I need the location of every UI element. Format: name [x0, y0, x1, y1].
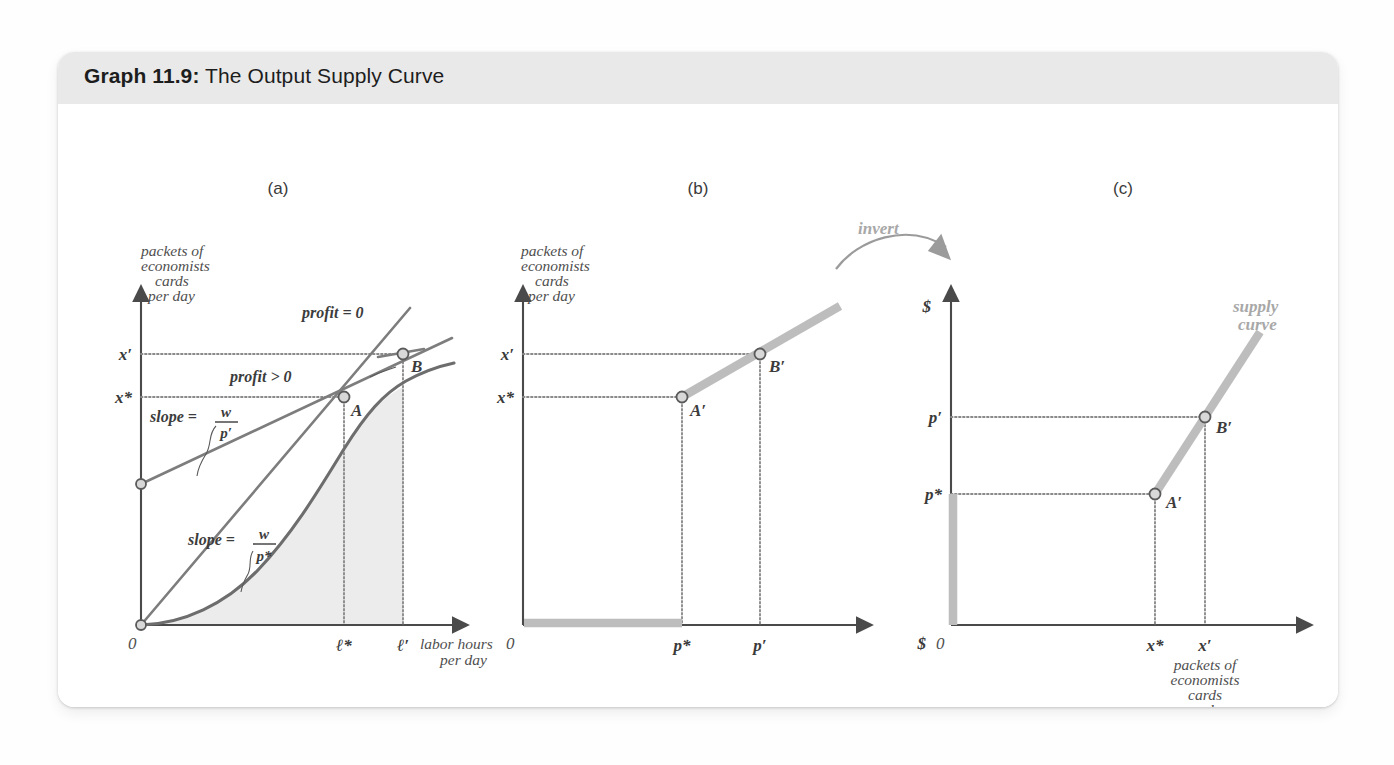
invert-annotation: invert [836, 219, 959, 269]
panel-c-origin-label: 0 [936, 634, 945, 653]
panel-b-xtick-high: p′ [751, 636, 766, 655]
panel-a-label: (a) [268, 179, 289, 198]
panel-a: (a) packets of economists cards per day [114, 179, 493, 668]
panel-a-xtick-low: ℓ* [336, 636, 352, 655]
panel-a-slope-high-annotation: slope = w p′ [149, 404, 238, 476]
invert-label: invert [858, 219, 900, 238]
figure-card-body: (a) packets of economists cards per day [58, 104, 1338, 707]
panel-a-shaded-region-2 [344, 387, 403, 625]
figure-card: Graph 11.9: The Output Supply Curve (a) … [58, 52, 1338, 707]
panel-a-slope-high-numerator: w [221, 404, 232, 420]
panel-a-point-a-label: A [350, 401, 362, 420]
panel-a-point-a [339, 392, 350, 403]
panel-c-point-a-label: A′ [1165, 493, 1182, 512]
panel-a-ytick-low: x* [114, 388, 133, 407]
panel-a-yaxis-caption: packets of economists cards per day [140, 242, 210, 304]
panel-a-slope-low-word: slope = [187, 531, 235, 549]
figure-svg: (a) packets of economists cards per day [58, 104, 1338, 707]
panel-a-xtick-high: ℓ′ [397, 636, 409, 655]
invert-arrowhead-icon [928, 231, 959, 260]
panel-b-yaxis-caption: packets of economists cards per day [520, 242, 590, 304]
panel-a-ytick-high: x′ [118, 345, 132, 364]
panel-c-ylabel: $ [922, 297, 932, 316]
panel-b-label: (b) [688, 179, 709, 198]
panel-b-point-b [755, 349, 766, 360]
panel-c-point-b [1200, 412, 1211, 423]
panel-a-shaded-region [141, 449, 344, 625]
panel-a-point-b-label: B [410, 357, 422, 376]
screenshot-root: Graph 11.9: The Output Supply Curve (a) … [0, 0, 1394, 765]
panel-c-label: (c) [1113, 179, 1133, 198]
panel-a-profit-pos-pointer [370, 367, 396, 377]
panel-c-xaxis-origin-dollar: $ [917, 634, 927, 653]
panel-c-ytick-low: p* [923, 485, 943, 504]
figure-title-text: The Output Supply Curve [199, 64, 444, 87]
invert-arc-icon [836, 235, 946, 269]
panel-a-slope-high-word: slope = [149, 408, 197, 426]
panel-a-slope-low-numerator: w [259, 526, 270, 542]
panel-b-origin-label: 0 [506, 634, 515, 653]
panel-c-ytick-high: p′ [927, 408, 942, 427]
panel-a-slope-high-denominator: p′ [218, 425, 232, 441]
panel-c-xlabel-line4: per day [1181, 701, 1229, 707]
panel-a-annot-profit-positive: profit > 0 [228, 368, 292, 386]
figure-number: Graph 11.9: [84, 64, 199, 87]
panel-c: (c) invert $ [836, 179, 1298, 707]
panel-b: (b) packets of economists cards per day [496, 179, 858, 655]
panel-c-point-b-label: B′ [1215, 418, 1232, 437]
panel-b-point-a [677, 392, 688, 403]
panel-c-supply-label-line2: curve [1238, 315, 1277, 334]
figure-title: Graph 11.9: The Output Supply Curve [84, 64, 444, 88]
panel-a-slope-low-denominator: p* [255, 548, 273, 564]
panel-c-supply-label-line1: supply [1232, 297, 1279, 316]
panel-a-intercept-point [136, 479, 146, 489]
panel-a-ylabel-line4: per day [147, 287, 195, 304]
panel-b-ytick-high: x′ [500, 345, 514, 364]
panel-a-origin-label: 0 [128, 634, 137, 653]
panel-a-point-b [398, 349, 409, 360]
panel-c-xtick-high: x′ [1197, 636, 1211, 655]
panel-a-xlabel-line2: per day [439, 651, 487, 668]
panel-b-xtick-low: p* [672, 636, 692, 655]
panel-a-annot-profit-zero: profit = 0 [300, 304, 364, 322]
panel-b-point-b-label: B′ [768, 357, 785, 376]
panel-a-origin-point [136, 620, 146, 630]
panel-b-point-a-label: A′ [689, 401, 706, 420]
panel-c-point-a [1150, 489, 1161, 500]
panel-c-xtick-low: x* [1146, 636, 1165, 655]
panel-b-ytick-low: x* [496, 388, 515, 407]
figure-card-header: Graph 11.9: The Output Supply Curve [58, 52, 1338, 104]
panel-a-xlabel-line1: labor hours [420, 635, 493, 652]
panel-c-xaxis-caption: packets of economists cards per day [1171, 656, 1240, 707]
panel-b-ylabel-line4: per day [527, 287, 575, 304]
